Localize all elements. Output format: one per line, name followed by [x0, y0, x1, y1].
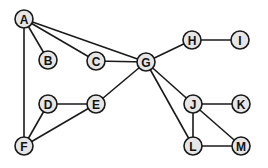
node-label: H — [188, 34, 197, 48]
node-i: I — [231, 31, 249, 49]
edge-e-f — [24, 104, 96, 146]
node-b: B — [39, 51, 57, 69]
node-label: A — [20, 13, 29, 27]
node-label: M — [236, 140, 246, 154]
node-a: A — [15, 10, 33, 28]
edges-layer — [24, 19, 241, 146]
node-h: H — [183, 31, 201, 49]
node-label: B — [44, 54, 53, 68]
nodes-layer: ABCGHIDEFJKLM — [15, 10, 250, 155]
node-k: K — [232, 95, 250, 113]
node-j: J — [184, 95, 202, 113]
node-m: M — [232, 137, 250, 155]
node-c: C — [87, 52, 105, 70]
node-label: C — [92, 55, 101, 69]
node-label: I — [238, 34, 241, 48]
graph-diagram: ABCGHIDEFJKLM — [0, 0, 268, 168]
node-label: E — [92, 98, 100, 112]
node-label: J — [190, 98, 197, 112]
node-l: L — [184, 137, 202, 155]
node-label: K — [237, 98, 246, 112]
node-d: D — [39, 95, 57, 113]
node-e: E — [87, 95, 105, 113]
node-label: L — [189, 140, 196, 154]
node-label: G — [141, 56, 150, 70]
node-f: F — [15, 137, 33, 155]
node-g: G — [137, 53, 155, 71]
node-label: F — [20, 140, 27, 154]
node-label: D — [44, 98, 53, 112]
